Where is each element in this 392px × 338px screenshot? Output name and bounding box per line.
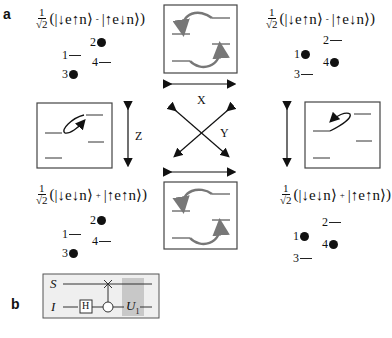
state-top-left: 1√2 (|↓e↑n⟩-|↑e↓n⟩) [36, 7, 145, 30]
top-transition-box [164, 5, 237, 73]
bottom-transition-box [164, 182, 237, 249]
axis-label-y: Y [220, 126, 229, 141]
level-4-bottom-left: 4 [92, 234, 111, 249]
level-1-top-right: 1 [294, 47, 310, 62]
right-transition-box [305, 102, 380, 168]
axis-label-z: Z [135, 129, 142, 144]
level-1-bottom-right: 1 [293, 229, 309, 244]
level-3-bottom-right: 3 [293, 251, 312, 266]
population-dot [300, 232, 309, 241]
circuit-diagram [43, 274, 159, 318]
wire-label-s: S [50, 276, 57, 292]
level-3-top-right: 3 [294, 67, 313, 82]
state-bottom-left: 1√2 (|↓e↓n⟩+|↑e↑n⟩) [36, 183, 147, 206]
level-4-top-left: 4 [92, 55, 111, 70]
wire-label-i: I [51, 299, 55, 315]
level-2-top-right: 2 [323, 33, 342, 48]
level-4-top-right: 4 [323, 55, 339, 70]
population-dot [329, 240, 338, 249]
state-top-right: 1√2 (|↓e↑n⟩-|↑e↓n⟩) [266, 7, 375, 30]
level-2-bottom-right: 2 [322, 215, 341, 230]
population-dot [69, 249, 78, 258]
hadamard-gate-label: H [82, 300, 89, 311]
left-transition-box [37, 103, 112, 168]
population-dot [97, 38, 106, 47]
level-4-bottom-right: 4 [322, 237, 338, 252]
panel-b-label: b [11, 296, 20, 312]
level-2-top-left: 2 [90, 35, 106, 50]
level-1-bottom-left: 1 [62, 227, 81, 242]
level-3-top-left: 3 [62, 67, 78, 82]
population-dot [69, 70, 78, 79]
population-dot [97, 216, 106, 225]
axis-label-x: X [197, 93, 206, 108]
population-dot [330, 58, 339, 67]
level-3-bottom-left: 3 [62, 246, 78, 261]
level-2-bottom-left: 2 [90, 213, 106, 228]
diagram-graphics [0, 0, 392, 338]
unitary-gate-label: U1 [126, 298, 139, 316]
level-1-top-left: 1 [62, 48, 81, 63]
population-dot [301, 50, 310, 59]
prefactor: 1√2 [36, 7, 48, 30]
state-bottom-right: 1√2 (|↓e↓n⟩+|↑e↑n⟩) [280, 183, 391, 206]
